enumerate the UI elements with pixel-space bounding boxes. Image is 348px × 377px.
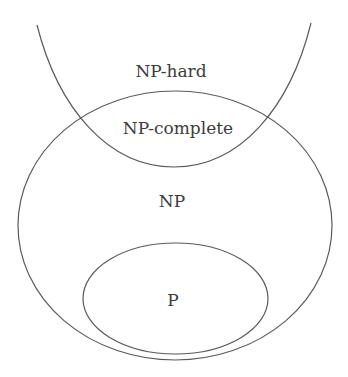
complexity-classes-diagram: NP-hard NP-complete NP P [0,0,348,377]
np-label: NP [159,191,185,211]
np-hard-label: NP-hard [135,61,206,81]
p-label: P [167,290,178,310]
np-hard-curve [37,23,311,167]
np-complete-label: NP-complete [123,118,233,138]
